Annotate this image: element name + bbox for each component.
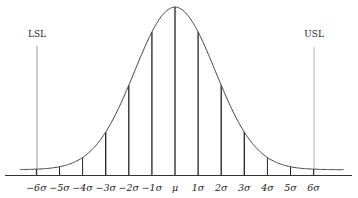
tick-label: 6σ bbox=[307, 182, 320, 193]
tick-label: −1σ bbox=[142, 182, 163, 193]
tick-label: −6σ bbox=[26, 182, 47, 193]
normal-curve bbox=[20, 7, 343, 170]
usl-label: USL bbox=[304, 29, 324, 39]
tick-label: 4σ bbox=[260, 182, 274, 193]
tick-label: −5σ bbox=[49, 182, 70, 193]
bell-curve-diagram: LSL USL −6σ−5σ−4σ−3σ−2σ−1σμ1σ2σ3σ4σ5σ6σ bbox=[0, 0, 358, 198]
sigma-lines bbox=[36, 7, 313, 175]
tick-labels: −6σ−5σ−4σ−3σ−2σ−1σμ1σ2σ3σ4σ5σ6σ bbox=[26, 182, 320, 193]
tick-label: −4σ bbox=[72, 182, 93, 193]
tick-label: 2σ bbox=[214, 182, 228, 193]
tick-label: 5σ bbox=[284, 182, 297, 193]
lsl-label: LSL bbox=[28, 29, 46, 39]
tick-label: −2σ bbox=[119, 182, 140, 193]
tick-label: 1σ bbox=[192, 182, 205, 193]
tick-label: μ bbox=[172, 182, 178, 193]
tick-label: −3σ bbox=[95, 182, 116, 193]
tick-label: 3σ bbox=[238, 182, 251, 193]
